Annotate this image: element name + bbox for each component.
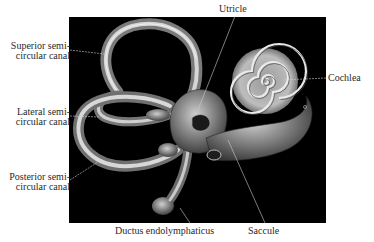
label-superior-semicircular-canal: Superior semi- circular canal (2, 41, 70, 61)
label-ductus-endolymphaticus: Ductus endolymphaticus (115, 226, 214, 236)
label-saccule: Saccule (248, 226, 279, 236)
label-lateral-semicircular-canal: Lateral semi- circular canal (2, 107, 70, 127)
label-posterior-semicircular-canal: Posterior semi- circular canal (2, 172, 70, 192)
label-utricle: Utricle (219, 4, 247, 14)
label-cochlea: Cochlea (328, 73, 361, 83)
